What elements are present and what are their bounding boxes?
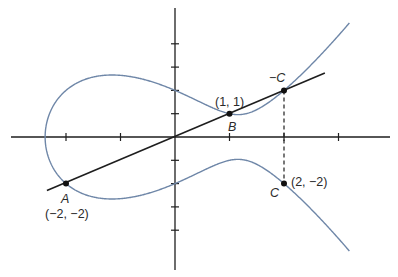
label-b-coords: (1, 1) (215, 95, 244, 109)
point-a (63, 181, 69, 187)
point-neg-c (281, 87, 287, 93)
label-b: B (228, 120, 236, 134)
point-c (281, 181, 287, 187)
elliptic-curve-lower-branch (45, 137, 349, 251)
label-a: A (60, 192, 69, 206)
label-c: C (270, 186, 280, 200)
point-b (227, 111, 233, 117)
elliptic-curve-upper-branch (45, 23, 349, 137)
label-neg-c: −C (269, 71, 286, 85)
elliptic-curve-diagram: A (−2, −2) (1, 1) B −C C (2, −2) (0, 0, 398, 277)
label-a-coords: (−2, −2) (45, 207, 89, 221)
label-c-coords: (2, −2) (291, 175, 327, 189)
